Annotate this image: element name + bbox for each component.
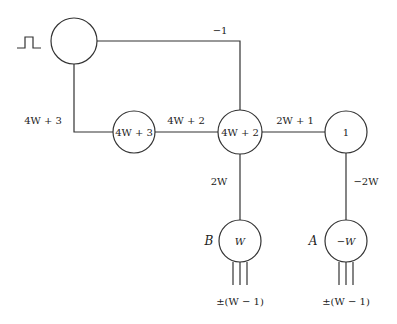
node-a-label: −W [337,236,356,247]
node-b-label: W [235,236,246,247]
edge-weight-source-n1: 4W + 3 [24,115,62,126]
edge-weight-n3-a: −2W [353,176,379,187]
node-source [51,18,97,64]
output-label-b: ±(W − 1) [216,296,264,307]
node-a-name: A [308,234,318,248]
edge-weight-n2-n3: 2W + 1 [276,115,314,126]
edge-weight-n2-b: 2W [211,176,228,187]
edge-weight-n1-n2: 4W + 2 [167,115,205,126]
edge-source-n2 [97,41,240,110]
edge-weight-source-n2: −1 [213,25,228,36]
node-n2-label: 4W + 2 [221,127,259,138]
output-label-a: ±(W − 1) [322,296,370,307]
node-b-name: B [204,234,214,248]
pulse-icon [17,37,41,48]
network-diagram: 4W + 3 4W + 2 1 W −W B A −1 4W + 3 4W + … [0,0,397,324]
node-n1-label: 4W + 3 [115,127,153,138]
edge-source-n1 [74,64,113,132]
node-n3-label: 1 [343,127,349,138]
